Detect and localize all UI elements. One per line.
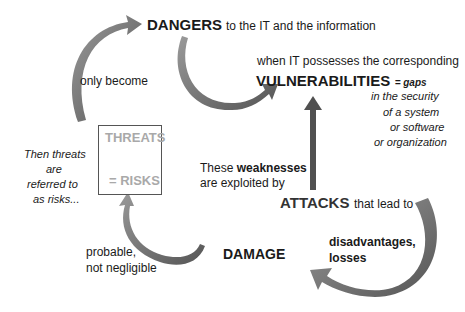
vulnerabilities-node: VULNERABILITIES = gaps bbox=[256, 72, 427, 90]
vulnerabilities-intro: when IT possesses the corresponding bbox=[257, 55, 459, 69]
probable-line-2: not negligible bbox=[86, 262, 157, 276]
weaknesses-keyword: weaknesses bbox=[237, 161, 307, 175]
only-become-label: only become bbox=[80, 75, 148, 89]
probable-line-1: probable, bbox=[86, 246, 136, 260]
disadvantages-line-2: losses bbox=[329, 252, 366, 266]
note-line-1: Then threats bbox=[24, 148, 86, 161]
attacks-node: ATTACKS that lead to bbox=[280, 194, 413, 212]
dangers-keyword: DANGERS bbox=[147, 16, 222, 33]
note-line-4: as risks... bbox=[33, 193, 79, 206]
damage-node: DAMAGE bbox=[223, 246, 285, 262]
disadvantages-line-1: disadvantages, bbox=[329, 236, 416, 250]
threats-risks-box: THREATS = RISKS bbox=[98, 125, 162, 195]
arrow-up-to-vulnerabilities-icon bbox=[304, 96, 322, 190]
arrow-threats-to-dangers-icon bbox=[72, 15, 142, 122]
vulnerabilities-keyword: VULNERABILITIES bbox=[256, 72, 390, 89]
definition-line-1: in the security bbox=[371, 90, 439, 103]
attacks-keyword: ATTACKS bbox=[280, 194, 349, 211]
dangers-text: to the IT and the information bbox=[226, 19, 376, 33]
note-line-2: are bbox=[46, 163, 62, 176]
definition-line-2: of a system bbox=[383, 106, 439, 119]
note-line-3: referred to bbox=[27, 178, 78, 191]
definition-line-3: or software bbox=[390, 121, 444, 134]
risks-label: = RISKS bbox=[109, 174, 160, 189]
weaknesses-pre: These bbox=[200, 161, 233, 175]
dangers-node: DANGERS to the IT and the information bbox=[147, 16, 376, 34]
weaknesses-line-2: are exploited by bbox=[200, 177, 285, 191]
gaps-definition-lead: = gaps bbox=[395, 77, 427, 88]
definition-line-4: or organization bbox=[374, 136, 447, 149]
weaknesses-line-1: These weaknesses bbox=[200, 162, 307, 176]
threats-label: THREATS bbox=[105, 131, 165, 146]
attacks-text: that lead to bbox=[354, 197, 413, 211]
